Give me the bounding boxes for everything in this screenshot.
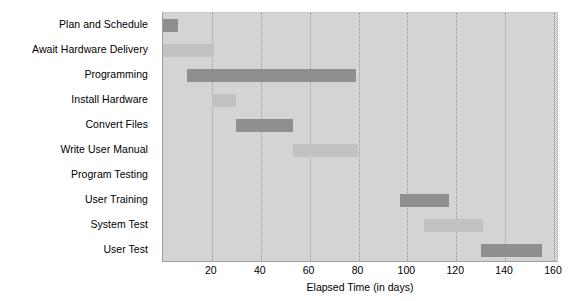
category-label: User Training — [85, 187, 148, 212]
category-label: System Test — [90, 212, 148, 237]
gantt-bar — [187, 69, 356, 82]
category-label: Programming — [84, 62, 148, 87]
gantt-bar — [212, 94, 236, 107]
gridline — [407, 13, 408, 261]
gantt-bar — [293, 144, 359, 157]
x-tick-label: 100 — [398, 264, 416, 276]
x-tick-label: 120 — [446, 264, 464, 276]
category-label: Write User Manual — [60, 137, 148, 162]
plot-area — [162, 12, 558, 262]
gantt-bar — [236, 119, 292, 132]
category-label: Convert Files — [85, 112, 148, 137]
x-tick-label: 160 — [544, 264, 562, 276]
x-axis-tick-labels: 20406080100120140160 — [162, 264, 558, 280]
gantt-bar — [163, 19, 178, 32]
x-tick-label: 80 — [352, 264, 364, 276]
category-label: Await Hardware Delivery — [32, 37, 148, 62]
x-tick-label: 60 — [303, 264, 315, 276]
gridline — [359, 13, 360, 261]
gridline — [554, 13, 555, 261]
gridline — [505, 13, 506, 261]
category-label: Program Testing — [71, 162, 148, 187]
x-tick-label: 40 — [254, 264, 266, 276]
category-label: User Test — [103, 237, 148, 262]
gantt-chart: Plan and ScheduleAwait Hardware Delivery… — [0, 0, 574, 301]
gantt-bar — [163, 44, 214, 57]
gridline — [261, 13, 262, 261]
category-label: Install Hardware — [71, 87, 148, 112]
x-axis-title: Elapsed Time (in days) — [162, 281, 558, 293]
gantt-bar — [424, 219, 483, 232]
gantt-bar — [481, 244, 542, 257]
category-label: Plan and Schedule — [59, 12, 148, 37]
category-axis-labels: Plan and ScheduleAwait Hardware Delivery… — [0, 12, 155, 262]
gridline — [310, 13, 311, 261]
x-tick-label: 20 — [205, 264, 217, 276]
x-tick-label: 140 — [495, 264, 513, 276]
gantt-bar — [400, 194, 449, 207]
